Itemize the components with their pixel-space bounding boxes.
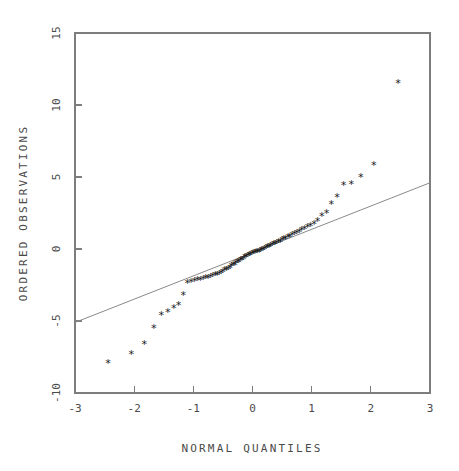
data-point: * (340, 179, 347, 192)
y-tick-label: 5 (50, 174, 63, 181)
x-axis-title: NORMAL QUANTILES (181, 442, 322, 455)
x-tick-label: 2 (368, 402, 375, 415)
y-tick-label: 0 (50, 246, 63, 253)
x-tick-label: 1 (308, 402, 315, 415)
data-point: * (141, 338, 148, 351)
data-point: * (150, 322, 157, 335)
x-tick-label: -2 (128, 402, 141, 415)
data-point: * (180, 289, 187, 302)
data-point: * (105, 357, 112, 370)
data-point: * (348, 178, 355, 191)
y-tick-label: 10 (50, 98, 63, 111)
qq-plot-svg: -10-5051015 -3-2-10123 *****************… (0, 0, 459, 471)
x-tick-label: -1 (187, 402, 200, 415)
data-point: * (128, 348, 135, 361)
data-point: * (370, 159, 377, 172)
data-point: * (357, 171, 364, 184)
plot-background (0, 0, 459, 471)
y-tick-label: -10 (50, 383, 63, 403)
y-axis-title: ORDERED OBSERVATIONS (17, 125, 30, 301)
x-tick-label: -3 (68, 402, 81, 415)
qq-plot-figure: -10-5051015 -3-2-10123 *****************… (0, 0, 459, 471)
data-point: * (395, 77, 402, 90)
x-tick-label: 0 (249, 402, 256, 415)
y-tick-label: 15 (50, 26, 63, 39)
x-tick-label: 3 (427, 402, 434, 415)
data-point: * (334, 191, 341, 204)
y-tick-label: -5 (50, 314, 63, 327)
